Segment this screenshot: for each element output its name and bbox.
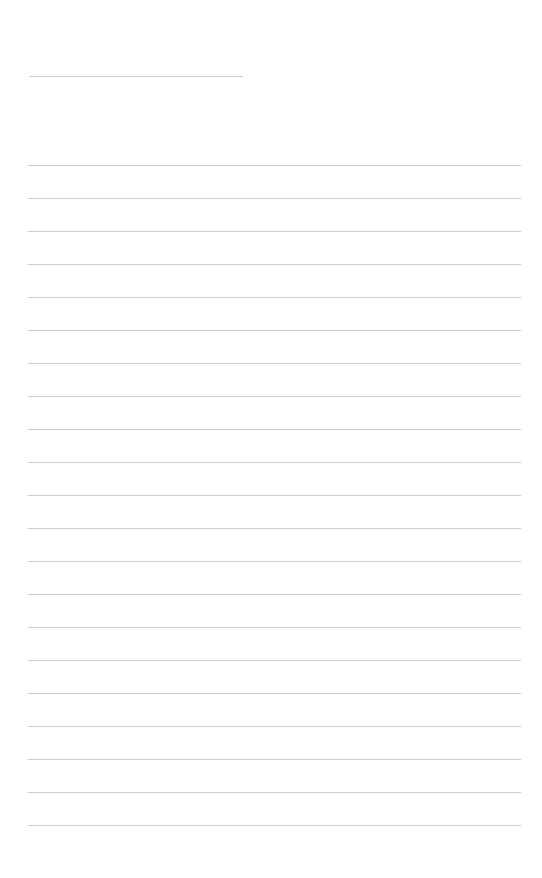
ruled-line [28,660,521,661]
ruled-line [28,726,521,727]
ruled-line [28,330,521,331]
ruled-line [28,561,521,562]
ruled-line [28,693,521,694]
ruled-line [28,825,521,826]
header-name-line [30,76,243,77]
ruled-line [28,165,521,166]
ruled-line [28,264,521,265]
ruled-line [28,429,521,430]
ruled-line [28,231,521,232]
ruled-line [28,363,521,364]
ruled-line [28,396,521,397]
ruled-line [28,297,521,298]
ruled-line [28,627,521,628]
ruled-line [28,594,521,595]
ruled-line [28,759,521,760]
ruled-line [28,198,521,199]
ruled-line [28,462,521,463]
ruled-line [28,792,521,793]
ruled-line [28,528,521,529]
ruled-line [28,495,521,496]
lined-paper-page [0,0,542,878]
